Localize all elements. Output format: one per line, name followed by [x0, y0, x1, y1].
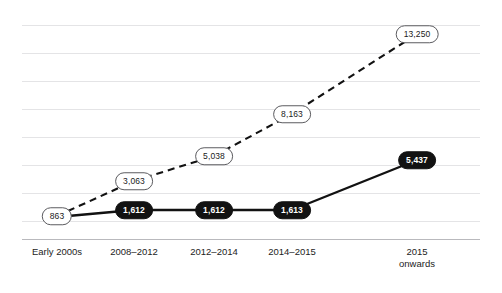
data-label-dashed-3: 8,163	[273, 105, 311, 123]
data-label-dashed-1: 3,063	[115, 172, 153, 190]
solid-series-line	[57, 160, 417, 217]
data-label-solid-1: 1,612	[115, 201, 153, 219]
data-label-solid-3: 1,613	[273, 201, 311, 219]
data-label-dashed-0: 863	[42, 207, 72, 225]
x-axis-tick-1: 2008–2012	[110, 246, 158, 258]
x-axis-tick-2: 2012–2014	[190, 246, 238, 258]
x-axis-tick-4: 2015 onwards	[399, 246, 435, 270]
chart-container: 863 3,063 5,038 8,163 13,250 1,612 1,612…	[0, 0, 502, 293]
data-label-dashed-4: 13,250	[396, 25, 439, 43]
x-axis: Early 2000s 2008–2012 2012–2014 2014–201…	[22, 246, 480, 286]
series-lines	[22, 8, 480, 240]
x-axis-tick-0: Early 2000s	[32, 246, 82, 258]
dashed-series-line	[57, 34, 417, 216]
plot-area: 863 3,063 5,038 8,163 13,250 1,612 1,612…	[22, 8, 480, 240]
x-axis-tick-3: 2014–2015	[268, 246, 316, 258]
data-label-dashed-2: 5,038	[195, 147, 233, 165]
data-label-solid-4: 5,437	[398, 151, 436, 169]
data-label-solid-2: 1,612	[195, 201, 233, 219]
